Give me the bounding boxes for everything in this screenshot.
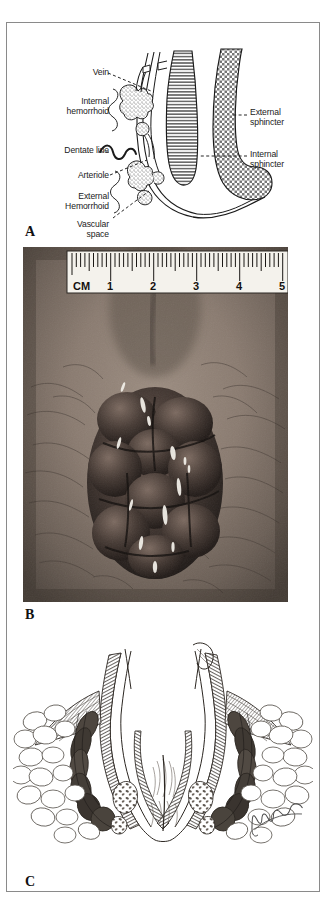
- figure-plate: Vein Internal hemorrhoid Dentate line Ar…: [6, 22, 320, 892]
- panel-letter-b: B: [25, 607, 34, 623]
- label-internal-hemorrhoid: Internal hemorrhoid: [15, 96, 109, 116]
- ruler-tick-2: 2: [150, 280, 156, 292]
- label-vein: Vein: [35, 67, 109, 77]
- panel-c: C: [7, 635, 319, 891]
- panel-letter-c: C: [25, 874, 35, 890]
- ruler-tick-1: 1: [107, 280, 113, 292]
- label-external-sphincter: External sphincter: [250, 107, 320, 127]
- ruler-tick-4: 4: [236, 280, 243, 292]
- clinical-photograph: CM 1 2 3 4 5: [23, 247, 288, 602]
- ruler-unit-label: CM: [73, 280, 90, 292]
- ruler-tick-5: 5: [279, 280, 285, 292]
- label-vascular-space: Vascular space: [29, 219, 109, 239]
- label-external-hemorrhoid: External Hemorrhoid: [13, 191, 109, 211]
- label-internal-sphincter: Internal sphincter: [250, 149, 320, 169]
- label-dentate-line: Dentate line: [9, 145, 109, 155]
- ruler-tick-3: 3: [193, 280, 199, 292]
- label-arteriole: Arteriole: [21, 170, 109, 180]
- panel-b: CM 1 2 3 4 5 B: [7, 247, 319, 409]
- panel-letter-a: A: [25, 224, 35, 240]
- coronal-anal-canal-drawing: [13, 635, 313, 857]
- panel-a: Vein Internal hemorrhoid Dentate line Ar…: [7, 23, 319, 245]
- ruler: CM 1 2 3 4 5: [67, 251, 288, 293]
